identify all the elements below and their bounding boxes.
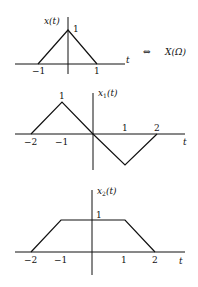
graph-x1-peak-label: 1 xyxy=(59,91,65,101)
graph-x1-tick-1: 1 xyxy=(122,123,128,133)
graph-x1-tick-2: 2 xyxy=(154,123,160,133)
graph-x2-tick-neg2: −2 xyxy=(24,255,37,265)
graph-x-xlabel: t xyxy=(126,55,130,65)
transform-label: X(Ω) xyxy=(164,47,186,57)
graph-x-peak-label: 1 xyxy=(73,24,79,34)
graph-x1: x1(t) 1 t −2 −1 1 2 xyxy=(15,88,187,170)
graph-x: x(t) 1 t −1 1 ⇔ X(Ω) xyxy=(15,16,186,76)
graph-x1-ylabel: x1(t) xyxy=(98,88,118,99)
graph-x-ylabel: x(t) xyxy=(44,16,60,26)
graph-x1-tick-neg1: −1 xyxy=(55,137,68,147)
graph-x1-tick-neg2: −2 xyxy=(24,137,37,147)
graph-x2-peak-label: 1 xyxy=(96,210,102,220)
graph-x-tick-neg1: −1 xyxy=(32,66,45,76)
graph-x2: x2(t) 1 t −2 −1 1 2 xyxy=(15,186,185,275)
graph-x2-tick-neg1: −1 xyxy=(54,255,67,265)
graph-x2-xlabel: t xyxy=(179,256,183,266)
graph-x-tick-1: 1 xyxy=(94,66,100,76)
graph-x1-xlabel: t xyxy=(183,137,187,147)
signal-diagram: x(t) 1 t −1 1 ⇔ X(Ω) x1(t) 1 t −2 −1 1 2… xyxy=(0,0,198,287)
trapezoid-signal xyxy=(31,220,155,252)
fourier-pair-symbol: ⇔ xyxy=(143,47,151,57)
graph-x2-tick-1: 1 xyxy=(121,255,127,265)
graph-x2-ylabel: x2(t) xyxy=(97,186,117,197)
graph-x2-tick-2: 2 xyxy=(152,255,158,265)
